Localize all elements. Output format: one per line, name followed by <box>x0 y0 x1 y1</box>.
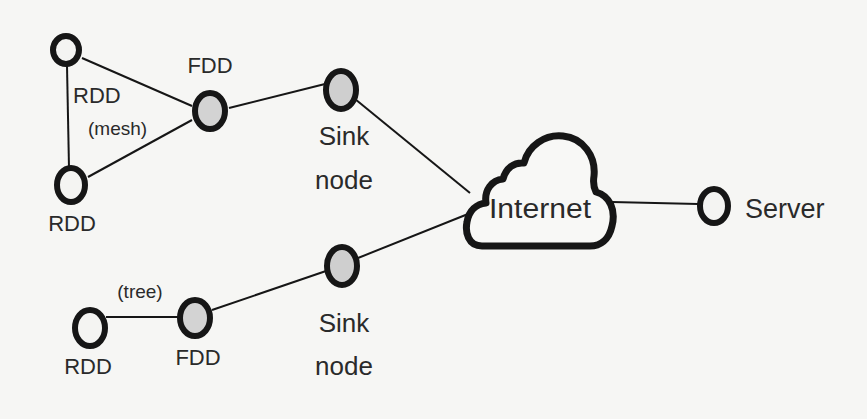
internet-cloud-icon <box>466 136 613 246</box>
label-rdd-mesh-top: RDD <box>73 83 121 108</box>
edge-rdd-mesh-top-to-rdd-mesh-bottom <box>67 66 69 168</box>
label-sink-top-line2: node <box>315 165 373 195</box>
node-fdd-tree <box>180 300 210 336</box>
node-rdd-mesh-bottom <box>57 168 85 202</box>
label-sink-bottom-line1: Sink <box>319 308 371 338</box>
label-fdd-tree: FDD <box>175 345 220 370</box>
label-rdd-mesh-bottom: RDD <box>48 211 96 236</box>
node-sink-bottom <box>327 247 357 285</box>
node-server <box>700 189 728 223</box>
node-sink-top <box>326 71 356 109</box>
label-fdd-mesh: FDD <box>187 53 232 78</box>
network-diagram: RDD (mesh) RDD FDD Sink node Internet Se… <box>0 0 867 419</box>
label-internet: Internet <box>489 194 592 224</box>
label-sink-top-line1: Sink <box>319 121 371 151</box>
label-sink-bottom-line2: node <box>315 351 373 381</box>
edges <box>67 58 698 317</box>
label-server: Server <box>745 194 825 224</box>
edge-internet-to-server <box>612 202 698 204</box>
edge-sink-bottom-to-internet <box>358 214 468 258</box>
diagram-svg: RDD (mesh) RDD FDD Sink node Internet Se… <box>0 0 867 419</box>
edge-fdd-mesh-to-sink-top <box>229 84 325 108</box>
edge-fdd-tree-to-sink-bottom <box>212 271 326 310</box>
label-mesh-type: (mesh) <box>88 118 147 139</box>
node-fdd-mesh <box>195 93 225 129</box>
label-rdd-tree: RDD <box>64 354 112 379</box>
node-rdd-mesh-top <box>53 36 79 64</box>
node-rdd-tree <box>75 310 105 346</box>
label-tree-type: (tree) <box>117 281 162 302</box>
